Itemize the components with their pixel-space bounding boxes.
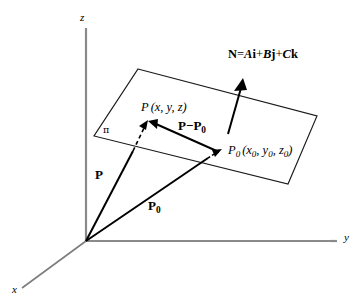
normal-coefficient-c: C bbox=[283, 47, 291, 61]
normal-plus-2: + bbox=[276, 47, 283, 61]
plane-pi-label: π bbox=[103, 125, 109, 135]
plane-vector-diagram: z y x π P(x, y, z) P0(x0, y0, z0) P P0 P… bbox=[0, 0, 364, 308]
point-p0-coord-y: , y bbox=[256, 143, 268, 157]
point-p-coords: (x, y, z) bbox=[151, 100, 187, 114]
normal-vector-name: N bbox=[228, 47, 237, 61]
point-p-label: P(x, y, z) bbox=[141, 101, 187, 114]
point-p0-label: P0(x0, y0, z0) bbox=[228, 144, 292, 159]
vector-p-label: P bbox=[95, 168, 103, 181]
point-p0-name: P bbox=[228, 143, 236, 157]
point-p0-coord-z: , z bbox=[273, 143, 284, 157]
vector-p0-label: P0 bbox=[148, 199, 161, 215]
point-p-name: P bbox=[141, 100, 149, 114]
x-axis-line bbox=[22, 241, 86, 288]
point-p0-subscript: 0 bbox=[236, 149, 241, 159]
diff-label-p: P bbox=[178, 118, 186, 133]
diff-label-p0-sub: 0 bbox=[201, 125, 206, 135]
diagram-canvas bbox=[0, 0, 364, 308]
vector-normal-group bbox=[228, 78, 247, 134]
vector-p0-label-sub: 0 bbox=[156, 205, 161, 215]
vector-p0-group bbox=[86, 149, 222, 241]
vector-p-arrowhead bbox=[139, 120, 148, 130]
vector-p0-shaft bbox=[86, 158, 208, 241]
vector-p-shaft bbox=[86, 151, 133, 241]
normal-vector-equation: N=Ai+Bj+Ck bbox=[228, 48, 298, 61]
point-p0-coord-close: ) bbox=[288, 143, 292, 157]
normal-unit-k: k bbox=[291, 47, 298, 61]
vector-normal-arrowhead bbox=[234, 78, 247, 91]
point-p0-coord-open: (x bbox=[242, 143, 252, 157]
z-axis-label: z bbox=[80, 12, 84, 23]
vector-p-minus-p0-label: P−P0 bbox=[178, 119, 206, 135]
y-axis-label: y bbox=[344, 232, 349, 243]
normal-plus-1: + bbox=[256, 47, 263, 61]
vector-p-minus-p0-arrowhead bbox=[148, 119, 158, 129]
vector-p0-label-name: P bbox=[148, 198, 156, 213]
x-axis-label: x bbox=[12, 284, 17, 295]
